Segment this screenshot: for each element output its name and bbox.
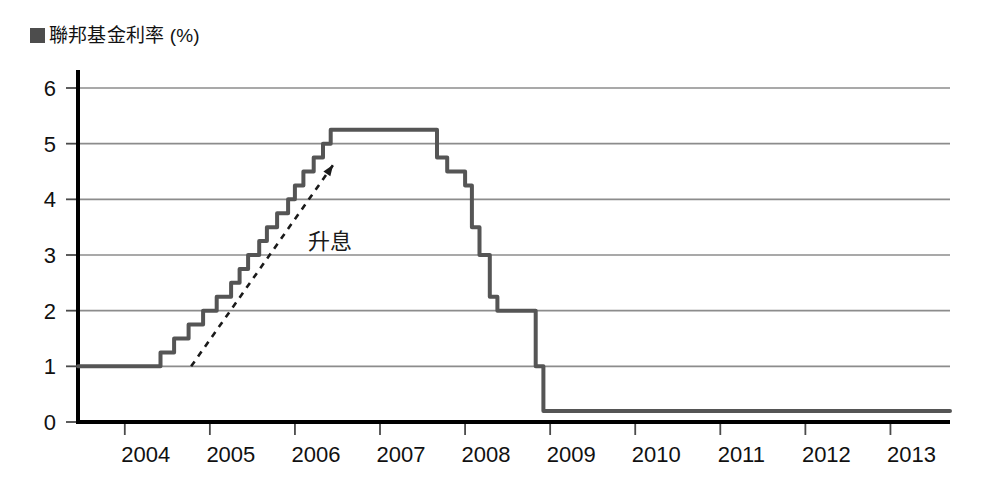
y-axis-tick-label: 6 (44, 76, 56, 101)
rising-trend-arrow (191, 165, 333, 367)
x-axis-tick-label: 2010 (632, 442, 681, 467)
x-axis-tick-label: 2004 (121, 442, 170, 467)
x-axis-tick-label: 2012 (802, 442, 851, 467)
arrow-shaft (191, 165, 333, 367)
y-axis-tick-label: 2 (44, 299, 56, 324)
y-axis-tick-label: 0 (44, 410, 56, 435)
x-axis-tick-label: 2008 (462, 442, 511, 467)
x-axis-tick-label: 2006 (291, 442, 340, 467)
y-axis-tick-label: 4 (44, 187, 56, 212)
x-axis-ticks-group: 2004200520062007200820092010201120122013 (121, 422, 936, 467)
x-axis-tick-label: 2009 (547, 442, 596, 467)
x-axis-tick-label: 2013 (887, 442, 936, 467)
annotation-label: 升息 (308, 229, 352, 254)
gridlines-group (78, 88, 950, 366)
plot-area: 0123456 20042005200620072008200920102011… (0, 0, 1003, 490)
y-axis-ticks-group: 0123456 (44, 76, 80, 435)
x-axis-tick-label: 2011 (718, 442, 765, 467)
y-axis-tick-label: 3 (44, 243, 56, 268)
x-axis-tick-label: 2007 (377, 442, 426, 467)
y-axis-tick-label: 1 (44, 354, 56, 379)
federal-funds-rate-chart: 聯邦基金利率 (%) 0123456 200420052006200720082… (0, 0, 1003, 490)
y-axis-tick-label: 5 (44, 132, 56, 157)
x-axis-tick-label: 2005 (206, 442, 255, 467)
rate-series-line (78, 130, 950, 411)
